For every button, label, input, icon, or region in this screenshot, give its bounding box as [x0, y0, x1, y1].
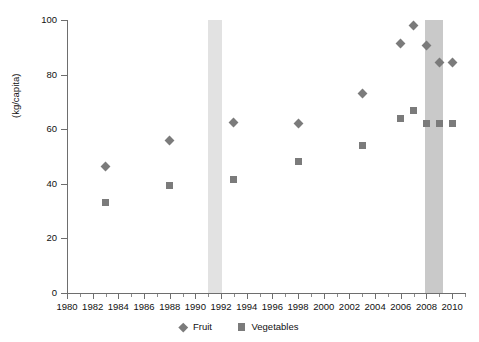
data-point-fruit [434, 57, 444, 67]
x-axis-minor-tick [80, 294, 81, 297]
x-axis-minor-tick [337, 294, 338, 297]
x-axis-minor-tick [439, 294, 440, 297]
data-point-vegetables [410, 107, 417, 114]
x-axis-tick [93, 294, 94, 299]
x-axis-minor-tick [131, 294, 132, 297]
data-point-vegetables [397, 115, 404, 122]
x-axis-tick-label: 2010 [432, 302, 472, 312]
x-axis-line [67, 293, 466, 294]
x-axis-tick [221, 294, 222, 299]
legend-entry-vegetables: Vegetables [238, 322, 299, 332]
x-axis-minor-tick [208, 294, 209, 297]
plot-area [67, 20, 465, 293]
y-axis-tick-label: 80 [17, 70, 57, 80]
x-axis-minor-tick [183, 294, 184, 297]
x-axis-minor-tick [465, 294, 466, 297]
data-point-fruit [409, 21, 419, 31]
square-marker-icon [238, 323, 246, 331]
x-axis-tick [426, 294, 427, 299]
y-axis-tick-label: 40 [17, 179, 57, 189]
x-axis-minor-tick [311, 294, 312, 297]
x-axis-tick [349, 294, 350, 299]
x-axis-tick [375, 294, 376, 299]
x-axis-tick [118, 294, 119, 299]
x-axis-minor-tick [285, 294, 286, 297]
y-axis-tick-label: 20 [17, 233, 57, 243]
x-axis-tick [298, 294, 299, 299]
y-axis-tick-label: 60 [17, 124, 57, 134]
y-axis-tick-label: 100 [17, 15, 57, 25]
x-axis-tick [247, 294, 248, 299]
y-axis-tick-label: 0 [17, 288, 57, 298]
data-point-vegetables [230, 176, 237, 183]
x-axis-tick [170, 294, 171, 299]
data-point-fruit [293, 119, 303, 129]
data-point-fruit [101, 161, 111, 171]
data-point-fruit [422, 41, 432, 51]
data-point-vegetables [166, 182, 173, 189]
x-axis-minor-tick [234, 294, 235, 297]
legend-entry-fruit: Fruit [180, 322, 212, 332]
data-point-fruit [357, 89, 367, 99]
y-axis-title: (kg/capita) [10, 74, 21, 118]
scatter-chart: (kg/capita) 020406080100 198019821984198… [0, 0, 479, 342]
x-axis-minor-tick [414, 294, 415, 297]
x-axis-tick [272, 294, 273, 299]
data-point-vegetables [359, 142, 366, 149]
x-axis-tick [195, 294, 196, 299]
x-axis-minor-tick [362, 294, 363, 297]
data-point-fruit [396, 38, 406, 48]
data-point-vegetables [102, 199, 109, 206]
chart-legend: FruitVegetables [0, 322, 479, 332]
data-point-fruit [447, 57, 457, 67]
x-axis-tick [67, 294, 68, 299]
data-point-vegetables [295, 158, 302, 165]
x-axis-tick [144, 294, 145, 299]
data-point-vegetables [423, 120, 430, 127]
x-axis-tick [452, 294, 453, 299]
x-axis-minor-tick [157, 294, 158, 297]
x-axis-minor-tick [388, 294, 389, 297]
data-point-vegetables [436, 120, 443, 127]
data-point-fruit [229, 117, 239, 127]
diamond-marker-icon [179, 322, 188, 331]
x-axis-tick [401, 294, 402, 299]
legend-label: Vegetables [251, 322, 298, 332]
data-point-vegetables [449, 120, 456, 127]
data-point-fruit [165, 135, 175, 145]
legend-label: Fruit [193, 322, 212, 332]
x-axis-minor-tick [260, 294, 261, 297]
x-axis-minor-tick [106, 294, 107, 297]
x-axis-tick [324, 294, 325, 299]
